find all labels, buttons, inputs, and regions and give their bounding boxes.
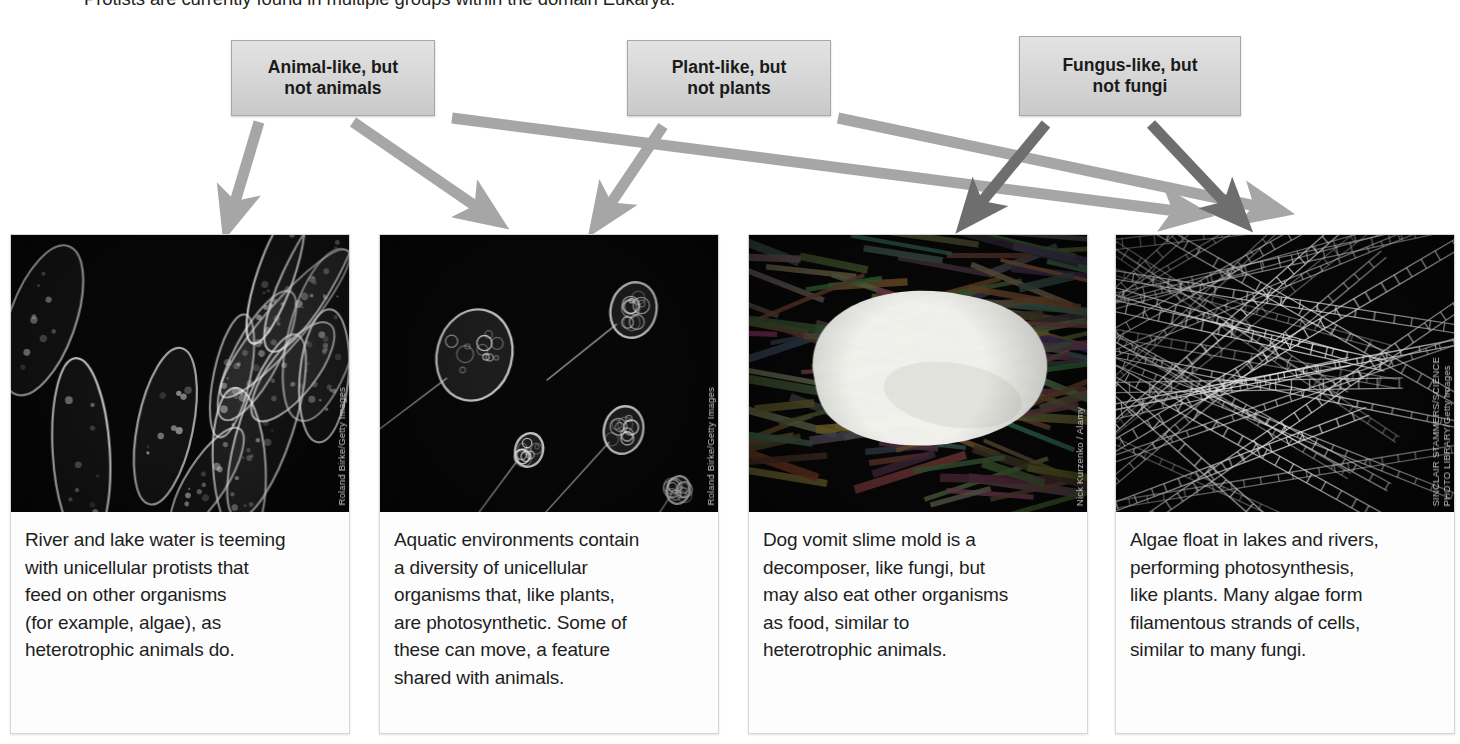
photo-credit-2: Nick Kurzenko / Alamy	[1074, 407, 1085, 506]
photo-dog-vomit-slime-mold: Nick Kurzenko / Alamy	[749, 235, 1087, 512]
photo-photosynthetic-flagellates: Roland Birke/Getty Images	[380, 235, 718, 512]
category-label-fungus-like: Fungus-like, but not fungi	[1062, 55, 1197, 97]
caption-protists-river-lake: River and lake water is teeming with uni…	[11, 512, 349, 733]
arrow-fungus-to-panel4	[1151, 124, 1232, 210]
panel-protists-river-lake[interactable]: Roland Birke/Getty Images River and lake…	[10, 234, 350, 734]
category-box-animal-like[interactable]: Animal-like, but not animals	[231, 40, 435, 116]
arrow-plant-to-panel4	[838, 118, 1265, 208]
photo-credit-1: Roland Birke/Getty Images	[705, 387, 716, 506]
category-label-animal-like: Animal-like, but not animals	[268, 57, 398, 99]
arrow-plant-to-panel2	[605, 126, 663, 212]
category-box-fungus-like[interactable]: Fungus-like, but not fungi	[1019, 36, 1241, 116]
photo-filamentous-algae: SINCLAIR STAMMERS/SCIENCE PHOTO LIBRARY/…	[1116, 235, 1454, 512]
caption-dog-vomit-slime-mold: Dog vomit slime mold is a decomposer, li…	[749, 512, 1087, 733]
arrow-fungus-to-panel3	[975, 124, 1046, 210]
caption-filamentous-algae: Algae float in lakes and rivers, perform…	[1116, 512, 1454, 733]
arrow-animal-to-panel2	[353, 122, 484, 212]
photo-credit-3: SINCLAIR STAMMERS/SCIENCE PHOTO LIBRARY/…	[1430, 357, 1452, 506]
category-label-plant-like: Plant-like, but not plants	[672, 57, 787, 99]
caption-photosynthetic-flagellates: Aquatic environments contain a diversity…	[380, 512, 718, 733]
intro-sentence: Protists are currently found in multiple…	[84, 0, 984, 10]
category-box-plant-like[interactable]: Plant-like, but not plants	[627, 40, 831, 116]
protist-diagram: Protists are currently found in multiple…	[0, 0, 1460, 744]
arrow-animal-to-panel1	[232, 122, 259, 212]
photo-credit-0: Roland Birke/Getty Images	[336, 387, 347, 506]
panel-filamentous-algae[interactable]: SINCLAIR STAMMERS/SCIENCE PHOTO LIBRARY/…	[1115, 234, 1455, 734]
photo-protists-river-lake: Roland Birke/Getty Images	[11, 235, 349, 512]
panel-photosynthetic-flagellates[interactable]: Roland Birke/Getty Images Aquatic enviro…	[379, 234, 719, 734]
arrow-animal-to-panel3	[452, 118, 1184, 212]
panel-dog-vomit-slime-mold[interactable]: Nick Kurzenko / Alamy Dog vomit slime mo…	[748, 234, 1088, 734]
